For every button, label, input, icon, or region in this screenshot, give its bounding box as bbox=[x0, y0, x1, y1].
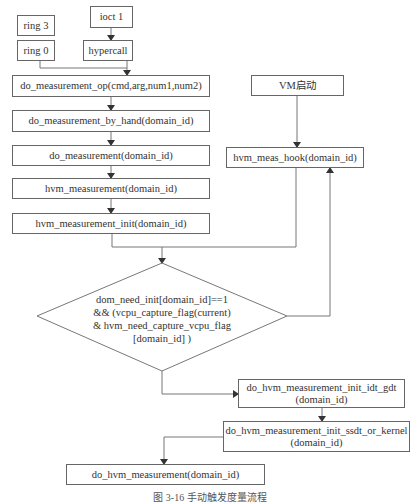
do-measurement-by-hand-box: do_measurement_by_hand(domain_id) bbox=[12, 110, 210, 132]
do-measurement-op-label: do_measurement_op(cmd,arg,num1,num2) bbox=[20, 80, 201, 92]
do-measurement-label: do_measurement(domain_id) bbox=[49, 150, 173, 162]
vm-start-box: VM启动 bbox=[251, 75, 344, 96]
hvm-measurement-box: hvm_measurement(domain_id) bbox=[12, 178, 210, 199]
do-measurement-op-box: do_measurement_op(cmd,arg,num1,num2) bbox=[12, 75, 210, 97]
hypercall-box: hypercall bbox=[83, 40, 133, 61]
do-hvm-measurement-label: do_hvm_measurement(domain_id) bbox=[92, 469, 240, 481]
ring0-box: ring 0 bbox=[17, 40, 55, 61]
do-hvm-measurement-box: do_hvm_measurement(domain_id) bbox=[66, 464, 265, 485]
hvm-meas-hook-box: hvm_meas_hook(domain_id) bbox=[226, 147, 364, 168]
ioctl-box: ioct 1 bbox=[90, 6, 133, 28]
init-idt-gdt-line-2: (domain_id) bbox=[296, 394, 348, 406]
hvm-meas-hook-label: hvm_meas_hook(domain_id) bbox=[233, 152, 357, 164]
hvm-measurement-init-box: hvm_measurement_init(domain_id) bbox=[12, 213, 210, 234]
init-idt-gdt-line-1: do_hvm_measurement_init_idt_gdt bbox=[247, 382, 397, 394]
figure-caption: 图 3-16 手动触发度量流程 bbox=[0, 489, 420, 504]
init-ssdt-line-2: (domain_id) bbox=[291, 437, 343, 449]
hvm-measurement-init-label: hvm_measurement_init(domain_id) bbox=[35, 218, 186, 230]
hvm-measurement-label: hvm_measurement(domain_id) bbox=[45, 183, 177, 195]
ioctl-label: ioct 1 bbox=[100, 11, 124, 23]
do-measurement-box: do_measurement(domain_id) bbox=[12, 145, 210, 166]
ring0-label: ring 0 bbox=[24, 45, 49, 57]
decision-line-1: dom_need_init[domain_id]==1 bbox=[62, 293, 262, 306]
decision-line-3: & hvm_need_capture_vcpu_flag bbox=[62, 319, 262, 332]
init-ssdt-line-1: do_hvm_measurement_init_ssdt_or_kernel bbox=[226, 425, 408, 437]
ring3-label: ring 3 bbox=[24, 20, 49, 32]
ring3-box: ring 3 bbox=[17, 15, 55, 36]
do-measurement-by-hand-label: do_measurement_by_hand(domain_id) bbox=[28, 115, 193, 127]
decision-condition: dom_need_init[domain_id]==1 && (vcpu_cap… bbox=[62, 293, 262, 345]
init-idt-gdt-box: do_hvm_measurement_init_idt_gdt (domain_… bbox=[238, 379, 405, 408]
hypercall-label: hypercall bbox=[88, 45, 127, 57]
decision-line-4: [domain_id] ) bbox=[62, 332, 262, 345]
vm-start-label: VM启动 bbox=[279, 80, 316, 92]
decision-line-2: && (vcpu_capture_flag(current) bbox=[62, 306, 262, 319]
init-ssdt-or-kernel-box: do_hvm_measurement_init_ssdt_or_kernel (… bbox=[223, 421, 410, 452]
